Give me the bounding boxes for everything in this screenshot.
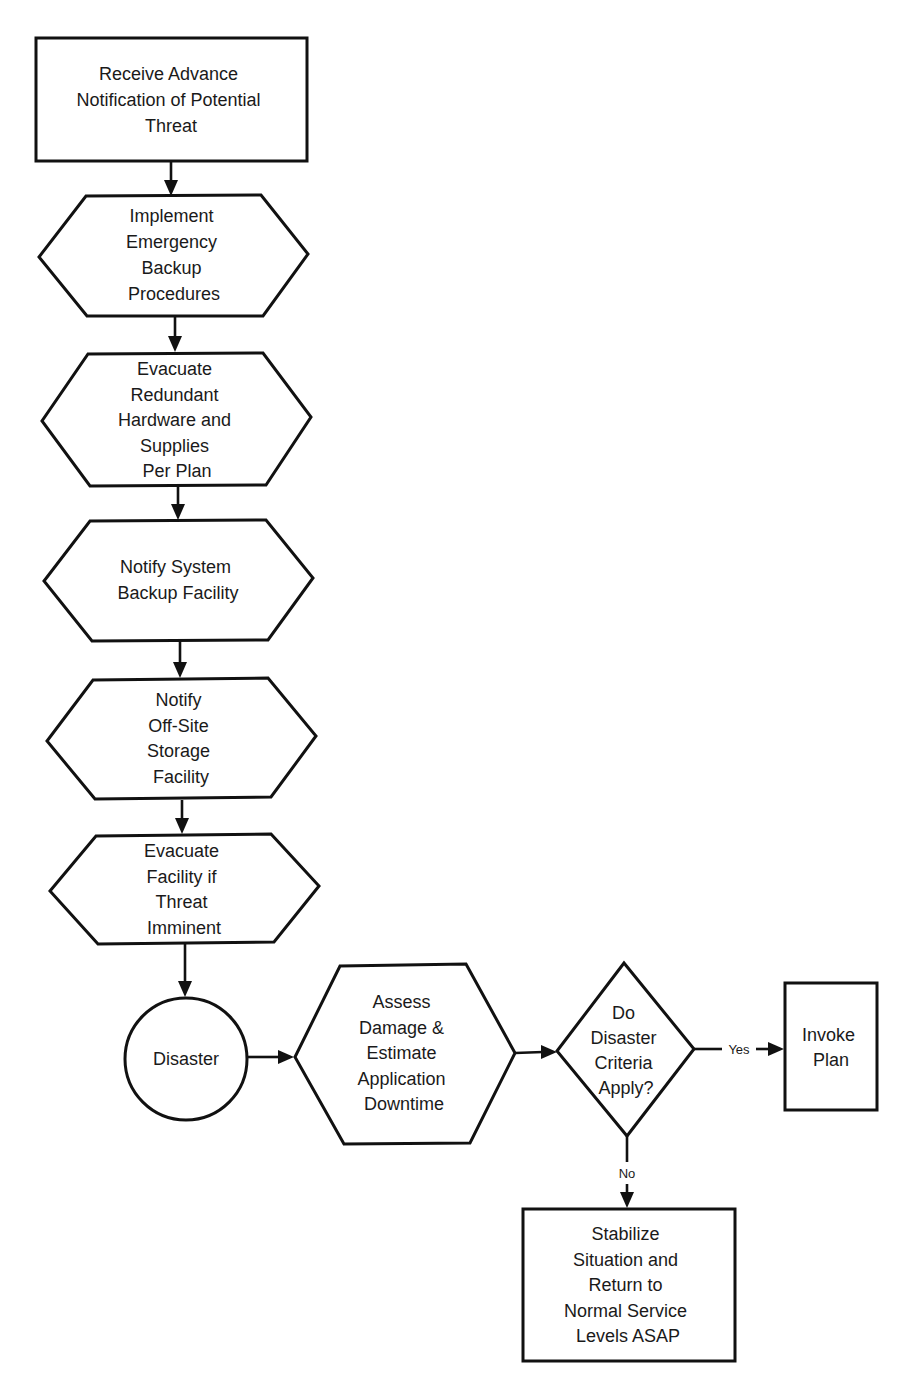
node-evacuate-hardware: Evacuate Redundant Hardware and Supplies…	[42, 353, 311, 486]
edge-disaster-to-assess	[248, 1050, 294, 1064]
edge-label-no: No	[619, 1166, 636, 1181]
node-evacuate-facility: Evacuate Facility if Threat Imminent	[50, 834, 319, 944]
edge-notify-offsite-to-evacuate-facility	[175, 800, 189, 834]
edge-criteria-to-stabilize: No	[619, 1136, 636, 1208]
node-stabilize-situation: Stabilize Situation and Return to Normal…	[523, 1209, 735, 1361]
edge-implement-to-evacuate-hardware	[168, 316, 182, 352]
edge-evacuate-hardware-to-notify-backup	[171, 486, 185, 520]
edge-label-yes: Yes	[728, 1042, 750, 1057]
edge-receive-to-implement	[164, 161, 178, 196]
edge-criteria-to-invoke: Yes	[694, 1042, 784, 1057]
node-notify-offsite-storage: Notify Off-Site Storage Facility	[47, 678, 316, 799]
flowchart: Yes No Receive Advance Notification of P…	[0, 0, 902, 1392]
node-label: Disaster	[153, 1049, 219, 1069]
node-invoke-plan: Invoke Plan	[785, 983, 877, 1110]
node-implement-backup-procedures: Implement Emergency Backup Procedures	[39, 195, 308, 316]
node-decision-criteria: Do Disaster Criteria Apply?	[557, 963, 694, 1136]
node-notify-backup-facility: Notify System Backup Facility	[44, 520, 313, 641]
edge-notify-backup-to-notify-offsite	[173, 640, 187, 678]
edge-evacuate-facility-to-disaster	[178, 944, 192, 997]
node-assess-damage: Assess Damage & Estimate Application Dow…	[295, 964, 515, 1144]
edge-assess-to-criteria	[515, 1045, 557, 1059]
node-receive-notification: Receive Advance Notification of Potentia…	[36, 38, 307, 161]
node-disaster: Disaster	[125, 998, 247, 1120]
